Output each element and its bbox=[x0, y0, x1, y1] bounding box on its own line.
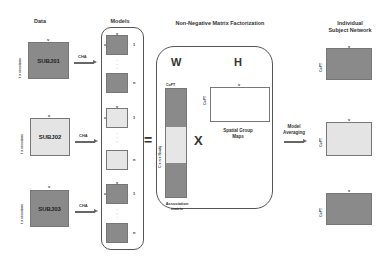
subject-matrix: SUBJ01 bbox=[28, 42, 69, 79]
row-axis-label: t x sessions bbox=[18, 44, 22, 78]
model-averaging-arrow-icon bbox=[284, 141, 304, 143]
nmf-header: Non-Negative Matrix Factorization bbox=[165, 20, 275, 26]
model-matrix bbox=[106, 150, 128, 170]
cha-label: CHA bbox=[79, 133, 88, 138]
model-averaging-label: Model Averaging bbox=[280, 124, 308, 136]
subject-matrix: SUBJ02 bbox=[30, 118, 70, 156]
model-index: n bbox=[133, 157, 135, 162]
h-caption: Spatial Group Maps bbox=[222, 128, 254, 140]
models-panel bbox=[101, 27, 144, 250]
w-matrix-block-3 bbox=[165, 163, 187, 198]
row-axis-label: t x sessions bbox=[20, 190, 24, 224]
subject-matrix: SUBJ03 bbox=[30, 190, 69, 227]
h-label: H bbox=[234, 56, 242, 68]
w-matrix-block-1 bbox=[165, 88, 187, 127]
data-header: Data bbox=[20, 18, 60, 24]
individual-network-header: Individual Subject Network bbox=[320, 20, 380, 34]
h-matrix bbox=[210, 87, 270, 122]
w-row-axis: C x n x Nsubj bbox=[158, 128, 162, 168]
model-matrix bbox=[106, 223, 128, 243]
cha-label: CHA bbox=[79, 203, 88, 208]
row-axis-label: CoPT bbox=[319, 127, 323, 147]
cha-arrow-icon bbox=[75, 211, 95, 213]
equals-sign: = bbox=[144, 132, 152, 148]
model-index: n bbox=[133, 230, 135, 235]
models-header: Models bbox=[100, 18, 140, 24]
row-axis-label: CoPT bbox=[319, 52, 323, 72]
cha-arrow-icon bbox=[74, 62, 94, 64]
w-caption: Association matrix bbox=[161, 201, 193, 211]
cha-label: CHA bbox=[78, 54, 87, 59]
ellipsis-icon: · · · bbox=[114, 58, 120, 70]
network-matrix bbox=[326, 193, 372, 225]
network-matrix bbox=[326, 122, 372, 156]
col-axis-label: v bbox=[48, 184, 50, 189]
subject-label: SUBJ01 bbox=[29, 58, 68, 64]
model-matrix bbox=[106, 35, 128, 55]
ellipsis-icon: · · · bbox=[114, 131, 120, 143]
w-label: W bbox=[171, 56, 181, 68]
model-index: n bbox=[133, 80, 135, 85]
h-row-axis: CoPT bbox=[203, 91, 207, 105]
multiply-sign: X bbox=[194, 133, 203, 148]
network-matrix bbox=[326, 48, 372, 80]
model-matrix bbox=[106, 184, 128, 204]
subject-label: SUBJ02 bbox=[31, 134, 69, 140]
model-index: 1 bbox=[133, 191, 135, 196]
model-index: 1 bbox=[133, 115, 135, 120]
model-index: 1 bbox=[133, 42, 135, 47]
cha-arrow-icon bbox=[75, 141, 95, 143]
row-axis-label: CoPT bbox=[319, 197, 323, 217]
row-axis-label: t x sessions bbox=[20, 120, 24, 154]
w-col-axis: CoPT bbox=[166, 83, 175, 87]
subject-label: SUBJ03 bbox=[31, 206, 68, 212]
ellipsis-icon: · · · bbox=[114, 207, 120, 219]
w-matrix-block-2 bbox=[165, 127, 187, 163]
model-matrix bbox=[106, 73, 128, 93]
model-matrix bbox=[106, 108, 128, 128]
